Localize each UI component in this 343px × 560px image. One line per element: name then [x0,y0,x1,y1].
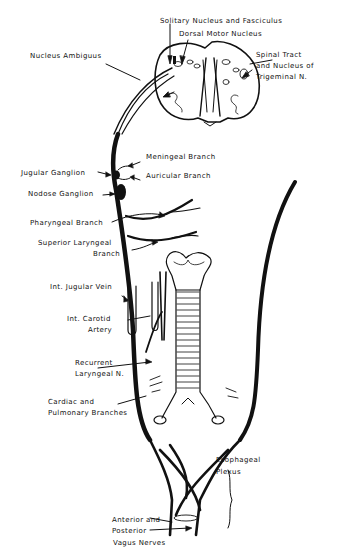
label-solitary-nucleus: Solitary Nucleus and Fasciculus [160,17,282,26]
nodose-ganglion [116,184,126,200]
label-meningeal-branch: Meningeal Branch [146,153,215,162]
label-cardiac-1: Cardiac and [48,398,94,407]
label-vagus-1: Anterior and [112,516,160,525]
label-esophageal-1: Esophageal [216,456,261,465]
label-int-carotid-1: Int. Carotid [67,315,111,324]
label-auricular-branch: Auricular Branch [146,172,211,181]
label-recurrent-1: Recurrent [75,359,113,368]
label-spinal-tract-3: Trigeminal N. [256,73,307,82]
label-jugular-ganglion: Jugular Ganglion [21,169,85,178]
label-nodose-ganglion: Nodose Ganglion [28,190,94,199]
label-nucleus-ambiguus: Nucleus Ambiguus [30,52,101,61]
label-int-jugular-vein: Int. Jugular Vein [50,283,112,292]
label-spinal-tract-1: Spinal Tract [256,51,302,60]
left-vagus-trunk [113,134,150,440]
label-spinal-tract-2: and Nucleus of [256,62,314,71]
label-esophageal-2: Plexus [216,468,241,477]
label-recurrent-2: Laryngeal N. [75,370,124,379]
diagram-artwork [0,0,343,560]
label-vagus-2: Posterior [112,527,147,536]
label-superior-laryngeal-1: Superior Laryngeal [38,239,112,248]
larynx [166,252,211,290]
vagus-nerve-diagram: Solitary Nucleus and Fasciculus Dorsal M… [0,0,343,560]
right-vagus-trunk [240,182,295,440]
label-pharyngeal-branch: Pharyngeal Branch [30,219,103,228]
trachea-rings [177,292,199,388]
label-superior-laryngeal-2: Branch [93,250,120,259]
label-dorsal-motor-nucleus: Dorsal Motor Nucleus [179,30,262,39]
label-vagus-3: Vagus Nerves [113,539,166,548]
label-cardiac-2: Pulmonary Branches [48,409,127,418]
label-int-carotid-2: Artery [88,326,112,335]
